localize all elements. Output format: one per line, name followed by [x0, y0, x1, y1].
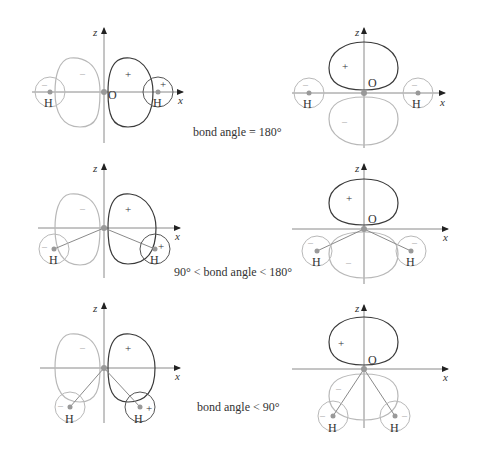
svg-text:x: x	[174, 230, 180, 242]
svg-text:H: H	[312, 255, 321, 269]
svg-text:–: –	[79, 342, 86, 353]
svg-text:–: –	[345, 257, 352, 268]
svg-text:+: +	[338, 337, 344, 349]
svg-text:+: +	[125, 342, 131, 354]
row2-left-px-diagram	[38, 164, 180, 278]
svg-text:x: x	[442, 231, 448, 243]
caption-row2: 90° < bond angle < 180°	[174, 265, 292, 280]
svg-text:x: x	[177, 94, 183, 106]
svg-text:z: z	[92, 162, 98, 174]
svg-text:–: –	[79, 203, 86, 214]
svg-text:z: z	[92, 26, 98, 38]
diagram-labels: z x O H H + + – – z x O H H + – – – z x …	[41, 26, 448, 435]
svg-text:–: –	[41, 79, 48, 90]
svg-text:O: O	[368, 76, 377, 90]
svg-text:O: O	[108, 88, 117, 102]
svg-text:–: –	[411, 237, 418, 248]
svg-text:z: z	[354, 162, 360, 174]
svg-text:H: H	[406, 255, 415, 269]
svg-text:x: x	[442, 371, 448, 383]
svg-text:+: +	[125, 203, 131, 215]
svg-text:H: H	[153, 96, 162, 110]
orbital-diagram-canvas: z x O H H + + – – z x O H H + – – – z x …	[0, 0, 485, 456]
svg-text:+: +	[346, 192, 352, 204]
svg-text:O: O	[368, 353, 377, 367]
svg-text:O: O	[368, 212, 377, 226]
svg-text:–: –	[411, 79, 418, 90]
svg-text:+: +	[160, 78, 166, 90]
svg-text:+: +	[342, 60, 348, 72]
svg-text:z: z	[92, 302, 98, 314]
svg-text:–: –	[335, 383, 342, 394]
svg-text:H: H	[328, 421, 337, 435]
svg-text:–: –	[41, 241, 48, 252]
svg-text:–: –	[307, 237, 314, 248]
row3-right-pz-diagram	[292, 305, 448, 431]
svg-text:z: z	[354, 302, 360, 314]
svg-text:+: +	[146, 402, 152, 414]
svg-text:x: x	[174, 370, 180, 382]
svg-text:H: H	[390, 421, 399, 435]
caption-row1: bond angle = 180°	[193, 125, 282, 140]
svg-text:–: –	[401, 410, 408, 421]
svg-text:–: –	[57, 400, 64, 411]
svg-text:x: x	[439, 96, 445, 108]
svg-text:+: +	[125, 68, 131, 80]
svg-text:H: H	[44, 96, 53, 110]
caption-row3: bond angle < 90°	[197, 400, 280, 415]
svg-text:H: H	[65, 412, 74, 426]
svg-text:–: –	[79, 68, 86, 79]
svg-text:–: –	[319, 410, 326, 421]
svg-text:H: H	[134, 412, 143, 426]
svg-text:H: H	[49, 253, 58, 267]
svg-text:H: H	[412, 97, 421, 111]
svg-text:H: H	[303, 97, 312, 111]
svg-text:+: +	[158, 240, 164, 252]
svg-text:–: –	[341, 116, 348, 127]
svg-text:–: –	[302, 79, 309, 90]
svg-text:z: z	[354, 26, 360, 38]
svg-text:H: H	[150, 253, 159, 267]
